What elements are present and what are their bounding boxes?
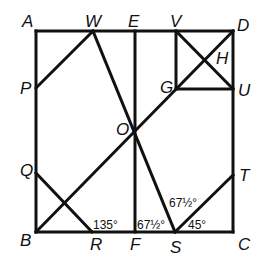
label-Q: Q	[20, 161, 33, 180]
label-B: B	[20, 231, 31, 250]
label-U: U	[238, 81, 251, 100]
label-P: P	[20, 79, 32, 98]
angle-135: 135°	[93, 218, 118, 232]
label-S: S	[170, 238, 182, 257]
angle-67-half-upper: 67½°	[169, 196, 197, 210]
label-W: W	[85, 12, 103, 31]
angle-45: 45°	[188, 218, 206, 232]
angle-67-half-lower: 67½°	[137, 218, 165, 232]
label-O: O	[116, 120, 129, 139]
label-R: R	[90, 235, 102, 254]
label-V: V	[170, 12, 183, 31]
segment-PW	[36, 31, 93, 88]
label-T: T	[239, 166, 251, 185]
geometry-diagram: A W E V D H G U P O Q T B R F S C 135° 6…	[0, 0, 265, 262]
label-H: H	[216, 49, 229, 68]
label-E: E	[128, 12, 140, 31]
label-G: G	[160, 78, 173, 97]
label-F: F	[130, 235, 142, 254]
label-C: C	[238, 235, 251, 254]
label-A: A	[21, 12, 33, 31]
label-D: D	[237, 16, 249, 35]
